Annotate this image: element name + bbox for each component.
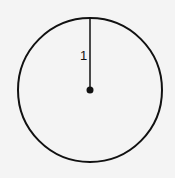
center-point (87, 87, 94, 94)
unit-circle-diagram: 1 (0, 0, 175, 178)
radius-label: 1 (80, 48, 87, 63)
